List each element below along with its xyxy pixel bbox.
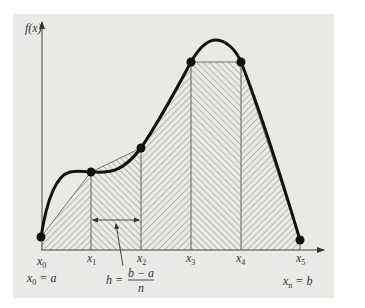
tick-label-x2: x2	[136, 251, 146, 267]
right-bound-label: xn= b	[282, 274, 312, 290]
formula-denominator: n	[138, 281, 144, 295]
node-x3	[187, 58, 196, 67]
node-x1	[87, 168, 96, 177]
trapezoid-4	[191, 62, 241, 250]
trapezoid-2	[91, 148, 141, 250]
trapezoidal-rule-figure: f(x) x0 x1 x2 x3 x4 x5 x0= a xn= b h = b…	[0, 0, 365, 308]
tick-label-x5: x5	[295, 251, 305, 267]
trapezoid-5	[241, 62, 300, 250]
node-x5	[296, 236, 305, 245]
trapezoid-3	[141, 62, 191, 250]
tick-label-x1: x1	[86, 251, 96, 267]
tick-label-x4: x4	[235, 251, 245, 267]
trapezoid-panels	[41, 62, 300, 250]
left-bound-label: x0= a	[26, 271, 56, 287]
node-x2	[137, 144, 146, 153]
step-size-formula: h = b − a n	[106, 266, 154, 295]
formula-numerator: b − a	[128, 266, 154, 280]
tick-label-x0: x0	[36, 254, 46, 270]
trapezoid-1	[41, 172, 91, 250]
formula-lhs: h =	[106, 273, 123, 287]
node-x0	[37, 233, 46, 242]
y-axis-label: f(x)	[25, 21, 42, 35]
tick-label-x3: x3	[185, 251, 195, 267]
node-x4	[237, 58, 246, 67]
